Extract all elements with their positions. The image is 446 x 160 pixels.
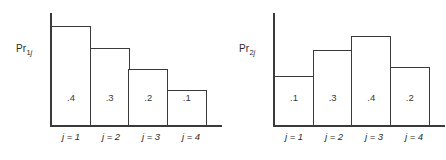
x-tick-label: j = 4 [171, 131, 211, 142]
y-axis-label-panel-2: Pr2j [239, 43, 255, 57]
y-axis-label-index-panel-1: j [31, 48, 33, 57]
x-tick-label: j = 3 [354, 131, 394, 142]
chart-panel-1: Pr1j .4 .3 .2 .1 j = 1 j [0, 0, 223, 160]
y-axis-label-prefix-panel-1: Pr [16, 43, 26, 54]
x-tick-labels-panel-2: j = 1 j = 2 j = 3 j = 4 [274, 131, 434, 142]
x-tick-label: j = 3 [131, 131, 171, 142]
bar-value-label: .3 [91, 92, 129, 103]
y-axis-label-index-panel-2: j [254, 48, 256, 57]
x-tick-label: j = 1 [274, 131, 314, 142]
x-tick-label: j = 1 [51, 131, 91, 142]
bar-group-panel-1: .4 .3 .2 .1 [51, 13, 211, 125]
y-axis-label-panel-1: Pr1j [16, 43, 32, 57]
bar-value-label: .4 [52, 92, 90, 103]
x-tick-label: j = 2 [314, 131, 354, 142]
x-axis-line-panel-1 [50, 125, 222, 127]
x-tick-label: j = 2 [91, 131, 131, 142]
bar: .4 [51, 26, 91, 126]
bar-value-label: .1 [275, 92, 313, 103]
chart-panel-2: Pr2j .1 .3 .4 .2 j = 1 j [223, 0, 446, 160]
bar: .4 [351, 36, 391, 126]
bar-group-panel-2: .1 .3 .4 .2 [274, 13, 434, 125]
x-tick-labels-panel-1: j = 1 j = 2 j = 3 j = 4 [51, 131, 211, 142]
bar-value-label: .2 [391, 92, 429, 103]
x-axis-line-panel-2 [273, 125, 445, 127]
x-tick-label: j = 4 [394, 131, 434, 142]
y-axis-label-prefix-panel-2: Pr [239, 43, 249, 54]
probability-distribution-figure: Pr1j .4 .3 .2 .1 j = 1 j [0, 0, 446, 160]
bar: .1 [167, 90, 207, 126]
bar: .1 [274, 76, 314, 125]
bar-value-label: .2 [129, 92, 167, 103]
bar-value-label: .1 [168, 92, 206, 103]
plot-area-panel-1: .4 .3 .2 .1 [50, 13, 222, 127]
bar-value-label: .3 [314, 92, 352, 103]
bar: .3 [313, 50, 353, 125]
bar: .2 [390, 67, 430, 125]
bar-value-label: .4 [352, 92, 390, 103]
plot-area-panel-2: .1 .3 .4 .2 [273, 13, 445, 127]
bar: .2 [128, 69, 168, 125]
bar: .3 [90, 48, 130, 125]
